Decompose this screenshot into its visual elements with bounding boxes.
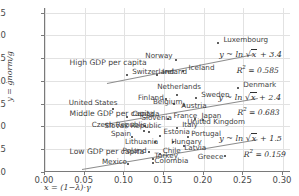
x-tick-mark — [282, 172, 283, 175]
y-tick-label: 1.0 — [0, 122, 6, 130]
y-tick-label: 0.0 — [0, 168, 6, 176]
data-point — [159, 135, 161, 137]
x-tick-mark — [242, 172, 243, 175]
data-point — [152, 158, 154, 160]
data-point — [143, 130, 145, 132]
x-tick-mark — [44, 172, 45, 175]
high-gdp-fit-r2: R2 = 0.585 — [237, 64, 279, 75]
gridline-horizontal — [45, 13, 290, 14]
point-label: Iceland — [188, 64, 214, 72]
x-tick-label: 0.00 — [24, 176, 64, 185]
x-tick-label: 0.20 — [183, 176, 223, 185]
y-tick-label: 1.5 — [0, 100, 6, 108]
middle-gdp-fit-r2: R2 = 0.683 — [237, 106, 279, 117]
data-point — [217, 42, 219, 44]
group-annotation: Middle GDP per capita — [70, 109, 155, 118]
gridline-vertical — [243, 8, 244, 171]
point-label: Luxembourg — [223, 36, 268, 44]
point-label: Denmark — [243, 81, 276, 89]
x-tick-mark — [123, 172, 124, 175]
group-annotation: High GDP per capita — [70, 58, 147, 67]
middle-gdp-fit-equation: y ~ ln √x + 2.4 — [218, 93, 281, 102]
gridline-vertical — [283, 8, 284, 171]
data-point — [195, 97, 197, 99]
high-gdp-fit-equation: y ~ ln √x + 3.4 — [219, 50, 282, 59]
data-point — [224, 155, 226, 157]
point-label: Colombia — [155, 157, 189, 165]
x-tick-label: 0.05 — [64, 176, 104, 185]
x-tick-mark — [84, 172, 85, 175]
y-tick-label: 3.0 — [0, 31, 6, 39]
y-tick-label: 2.5 — [0, 54, 6, 62]
point-label: Norway — [145, 52, 172, 60]
data-point — [175, 59, 177, 61]
x-tick-label: 0.15 — [143, 176, 183, 185]
group-annotation: Low GDP per capita — [70, 147, 145, 156]
point-label: United States — [69, 99, 118, 107]
plot-area: SwitzerlandIrelandNorwayIcelandLuxembour… — [44, 8, 290, 172]
y-tick-label: 3.5 — [0, 9, 6, 17]
y-tick-label: 0.5 — [0, 145, 6, 153]
gridline-vertical — [45, 8, 46, 171]
x-tick-mark — [163, 172, 164, 175]
point-label: Latvia — [184, 144, 206, 152]
data-point — [127, 163, 129, 165]
x-tick-label: 0.10 — [103, 176, 143, 185]
point-label: Belgium — [153, 98, 182, 106]
data-point — [176, 94, 178, 96]
point-label: Estonia — [163, 128, 189, 136]
point-label: Austria — [181, 102, 206, 110]
x-tick-mark — [203, 172, 204, 175]
data-point — [237, 87, 239, 89]
point-label: Lithuania — [125, 138, 158, 146]
point-label: Mexico — [102, 158, 127, 166]
x-tick-label: 0.25 — [222, 176, 262, 185]
x-tick-label: 0.30 — [262, 176, 299, 185]
data-point — [126, 74, 128, 76]
data-point — [148, 131, 150, 133]
scatter-chart: y = ġnorm/g x = (1−λ)·γ 0.00.51.01.52.02… — [0, 0, 299, 196]
low-gdp-fit-equation: y ~ ln √x + 1.5 — [219, 134, 282, 143]
low-gdp-fit-r2: R2 = 0.159 — [244, 148, 286, 159]
data-point — [148, 151, 150, 153]
y-tick-label: 2.0 — [0, 77, 6, 85]
point-label: Netherlands — [157, 83, 201, 91]
point-label: Greece — [198, 153, 224, 161]
data-point — [152, 162, 154, 164]
